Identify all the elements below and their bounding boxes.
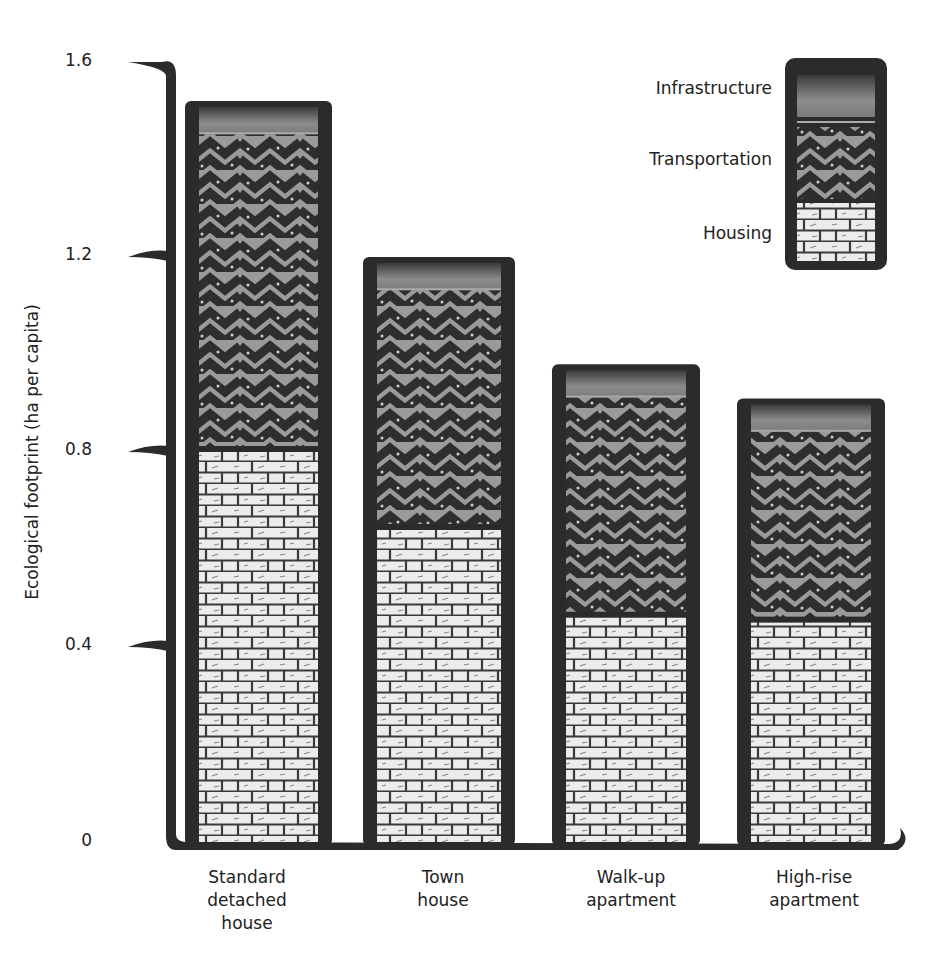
y-tick-0: 0 — [32, 830, 92, 850]
segment-transportation — [377, 286, 501, 524]
stacked-bar-chart: Ecological footprint (ha per capita) 1.6… — [0, 0, 946, 975]
y-tick-mark — [128, 641, 168, 651]
legend-infrastructure: Infrastructure — [572, 78, 772, 98]
bar-1 — [363, 257, 515, 846]
bar-0 — [185, 101, 332, 846]
x-label-standard-detached-house: Standard detached house — [167, 866, 327, 935]
y-tick-0.8: 0.8 — [32, 439, 92, 459]
segment-transportation — [751, 428, 871, 617]
segment-housing — [751, 623, 871, 842]
segment-housing — [566, 618, 686, 842]
legend-housing-swatch — [797, 203, 875, 261]
y-tick-0.4: 0.4 — [32, 634, 92, 654]
bar-3 — [737, 398, 885, 846]
plot-area — [0, 0, 946, 975]
legend-transportation: Transportation — [572, 149, 772, 169]
x-label-high-rise-apartment: High-rise apartment — [734, 866, 894, 912]
y-tick-1.6: 1.6 — [32, 50, 92, 70]
y-tick-mark — [128, 446, 168, 456]
segment-infrastructure — [751, 404, 871, 431]
legend-infrastructure-swatch — [797, 75, 875, 117]
bars — [185, 101, 885, 846]
segment-transportation — [566, 394, 686, 612]
x-label-town-house: Town house — [363, 866, 523, 912]
bar-2 — [552, 364, 700, 846]
segment-infrastructure — [199, 107, 318, 134]
legend-swatch — [785, 58, 887, 270]
legend-housing: Housing — [572, 223, 772, 243]
legend-transportation-swatch — [797, 127, 875, 199]
segment-transportation — [199, 130, 318, 446]
segment-infrastructure — [566, 370, 686, 397]
segment-infrastructure — [377, 263, 501, 290]
segment-housing — [377, 530, 501, 842]
y-tick-mark — [128, 251, 168, 261]
x-label-walk-up-apartment: Walk-up apartment — [551, 866, 711, 912]
y-tick-1.2: 1.2 — [32, 244, 92, 264]
segment-housing — [199, 452, 318, 842]
